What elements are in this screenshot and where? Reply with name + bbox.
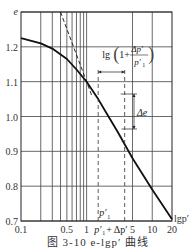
lg-annotation: lg [102, 49, 110, 60]
compression-curve [21, 38, 172, 219]
y-axis-label: e [14, 6, 19, 17]
y-tick-label: 0.8 [6, 181, 19, 192]
tick-labels: 0.70.80.91.01.11.20.10.5151020elgp′ [6, 6, 189, 235]
y-tick-label: 1.0 [6, 112, 19, 123]
svg-text:): ) [148, 44, 154, 65]
figure-caption: 图 3-10 e-lgp′ 曲线 [0, 233, 196, 249]
y-tick-label: 0.9 [6, 146, 19, 157]
annotations: lg(1+Δp′p′1)Δep′1p′1+ Δp′ [93, 44, 154, 236]
fraction-numerator: Δp′ [130, 44, 144, 54]
e-lgp-chart: lg(1+Δp′p′1)Δep′1p′1+ Δp′ 0.70.80.91.01.… [0, 0, 196, 249]
p1-label: p′ [98, 207, 107, 218]
fraction-denominator: p′ [133, 57, 142, 67]
svg-text:1: 1 [142, 62, 145, 68]
y-tick-label: 1.2 [6, 42, 19, 53]
svg-text:1: 1 [107, 214, 110, 220]
svg-text:1+: 1+ [119, 49, 130, 60]
x-axis-label: lgp′ [174, 213, 189, 224]
delta-e-label: Δe [136, 107, 148, 118]
y-tick-label: 1.1 [6, 77, 19, 88]
